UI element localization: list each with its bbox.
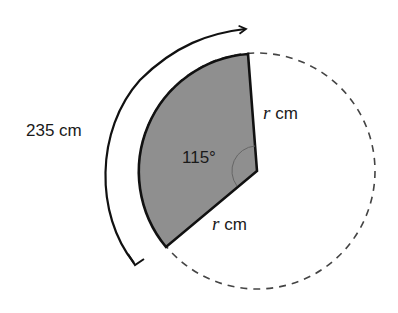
arc-length-label: 235 cm: [26, 121, 82, 140]
radius-unit-upper: cm: [270, 104, 297, 123]
radius-label-upper: r cm: [263, 102, 298, 123]
angle-label: 115°: [182, 148, 216, 167]
arrowhead-bottom: [128, 254, 144, 265]
radius-label-lower: r cm: [212, 213, 247, 234]
radius-unit-lower: cm: [219, 215, 246, 234]
sector-diagram: 235 cm 115° r cm r cm: [0, 0, 398, 313]
